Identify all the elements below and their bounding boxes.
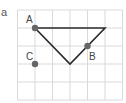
point-a [32, 25, 38, 31]
point-b [84, 43, 90, 49]
point-a-label: A [26, 14, 33, 25]
point-c-label: C [26, 51, 33, 62]
grid [18, 10, 123, 100]
grid-figure: A B C [0, 0, 126, 103]
point-b-label: B [89, 51, 96, 62]
